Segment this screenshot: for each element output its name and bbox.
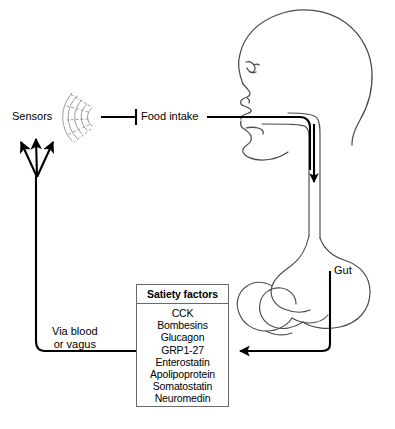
list-item: Bombesins [137, 319, 228, 331]
list-item: CCK [137, 307, 228, 319]
sensors-three-arrows-icon [21, 139, 53, 177]
sensor-waves-icon [62, 93, 92, 142]
list-item: Apolipoprotein [137, 368, 228, 380]
via-blood-line-2: or vagus [52, 338, 98, 351]
gut-label: Gut [334, 264, 352, 277]
head-profile-outline [239, 10, 373, 160]
digestive-tract-outline [237, 113, 370, 335]
via-blood-or-vagus-label: Via blood or vagus [52, 325, 98, 351]
satiety-feedback-diagram: Sensors Food intake Gut Via blood or vag… [0, 0, 395, 429]
list-item: Neuromedin [137, 392, 228, 404]
sensors-label: Sensors [12, 110, 52, 123]
satiety-factors-title: Satiety factors [137, 285, 228, 304]
satiety-factors-box: Satiety factors CCK Bombesins Glucagon G… [136, 284, 229, 407]
satiety-factors-list: CCK Bombesins Glucagon GRP1-27 Enterosta… [137, 304, 228, 405]
food-intake-label: Food intake [141, 110, 198, 123]
list-item: GRP1-27 [137, 344, 228, 356]
list-item: Enterostatin [137, 356, 228, 368]
list-item: Glucagon [137, 331, 228, 343]
via-blood-line-1: Via blood [52, 325, 98, 338]
list-item: Somatostatin [137, 380, 228, 392]
food-intake-inhibition-connector [101, 109, 137, 125]
